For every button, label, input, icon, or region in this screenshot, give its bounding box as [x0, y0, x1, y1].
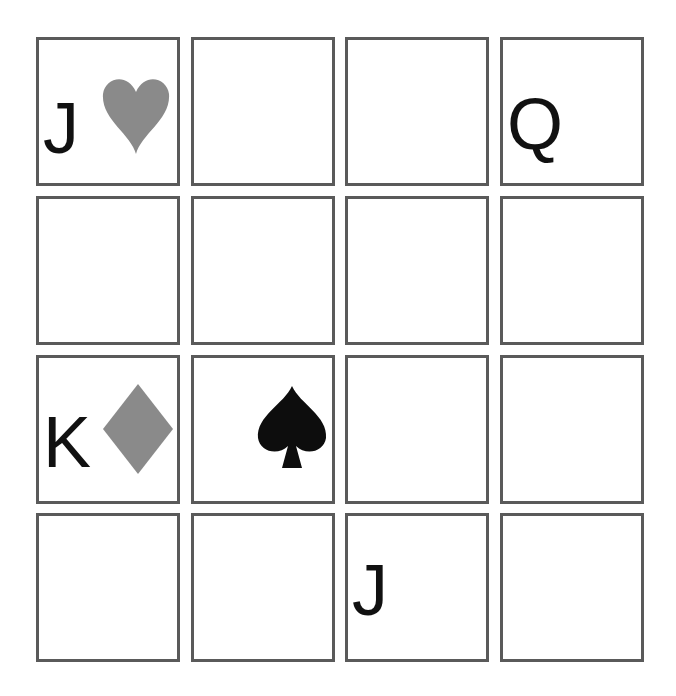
cell-r0-c0[interactable]: J	[36, 37, 180, 186]
cell-r1-c3[interactable]	[500, 196, 644, 345]
cell-r2-c1[interactable]	[191, 355, 335, 504]
cell-r3-c3[interactable]	[500, 513, 644, 662]
cell-r3-c0[interactable]	[36, 513, 180, 662]
cell-r0-c1[interactable]	[191, 37, 335, 186]
cell-r1-c2[interactable]	[345, 196, 489, 345]
diamond-icon	[103, 384, 173, 474]
cell-r3-c2[interactable]: J	[345, 513, 489, 662]
cell-r2-c3[interactable]	[500, 355, 644, 504]
rank-label: J	[43, 92, 79, 164]
cell-r0-c2[interactable]	[345, 37, 489, 186]
cell-r2-c0[interactable]: K	[36, 355, 180, 504]
cell-r1-c0[interactable]	[36, 196, 180, 345]
game-board: J Q K J	[0, 0, 676, 696]
rank-label: Q	[507, 88, 563, 160]
cell-r2-c2[interactable]	[345, 355, 489, 504]
rank-label: J	[352, 554, 388, 626]
heart-icon	[101, 74, 171, 154]
cell-r0-c3[interactable]: Q	[500, 37, 644, 186]
spade-icon	[256, 386, 328, 468]
cell-r3-c1[interactable]	[191, 513, 335, 662]
cell-r1-c1[interactable]	[191, 196, 335, 345]
rank-label: K	[43, 406, 91, 478]
